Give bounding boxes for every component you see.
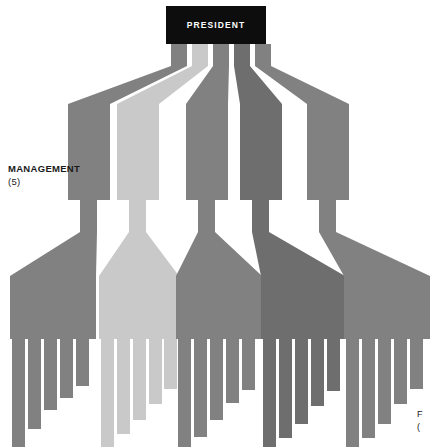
staff-group-bar-3[interactable] xyxy=(176,309,262,339)
management-label-line1: MANAGEMENT xyxy=(8,163,80,174)
staff-node-5-1[interactable] xyxy=(346,339,359,447)
management-node-2[interactable] xyxy=(117,158,159,200)
management-level-label: MANAGEMENT (5) xyxy=(8,162,80,188)
staff-node-4-2[interactable] xyxy=(279,339,292,438)
staff-node-3-3[interactable] xyxy=(210,339,223,420)
management-label-count: (5) xyxy=(8,175,80,188)
staff-node-1-3[interactable] xyxy=(44,339,57,410)
staff-node-5-3[interactable] xyxy=(378,339,391,424)
staff-node-3-2[interactable] xyxy=(194,339,207,437)
staff-node-3-1[interactable] xyxy=(178,339,191,447)
staff-node-2-1[interactable] xyxy=(101,339,114,447)
management-node-4[interactable] xyxy=(240,158,282,200)
staff-node-4-3[interactable] xyxy=(295,339,308,424)
staff-node-2-3[interactable] xyxy=(133,339,146,420)
president-box-label: PRESIDENT xyxy=(187,20,246,30)
staff-node-4-5[interactable] xyxy=(327,339,340,391)
branch-lower-band-3 xyxy=(176,200,262,309)
staff-node-5-4[interactable] xyxy=(394,339,407,404)
corner-note-line1: F xyxy=(417,408,430,421)
management-node-5[interactable] xyxy=(307,158,349,200)
staff-node-3-5[interactable] xyxy=(242,339,255,390)
corner-note: F ( xyxy=(417,408,430,434)
staff-node-4-1[interactable] xyxy=(263,339,276,447)
president-box-group: PRESIDENT xyxy=(166,6,266,44)
staff-node-3-4[interactable] xyxy=(226,339,239,403)
staff-node-2-2[interactable] xyxy=(117,339,130,434)
staff-node-5-2[interactable] xyxy=(362,339,375,438)
staff-node-1-5[interactable] xyxy=(76,339,89,386)
branch-lower-band-1 xyxy=(10,200,97,309)
staff-group-bar-2[interactable] xyxy=(99,309,179,339)
staff-node-2-5[interactable] xyxy=(164,339,177,389)
branch-layer xyxy=(10,44,430,447)
staff-node-1-1[interactable] xyxy=(12,339,25,447)
corner-note-line2: ( xyxy=(417,421,430,434)
management-node-3[interactable] xyxy=(186,158,228,200)
staff-group-bar-1[interactable] xyxy=(10,309,96,339)
staff-node-2-4[interactable] xyxy=(149,339,162,404)
staff-node-1-4[interactable] xyxy=(60,339,73,398)
staff-node-1-2[interactable] xyxy=(28,339,41,429)
org-chart-canvas: PRESIDENT xyxy=(0,0,430,447)
staff-group-bar-4[interactable] xyxy=(261,309,345,339)
staff-group-bar-5[interactable] xyxy=(344,309,430,339)
staff-node-4-4[interactable] xyxy=(311,339,324,406)
branch-lower-band-2 xyxy=(99,200,179,309)
staff-node-5-5[interactable] xyxy=(410,339,423,389)
org-chart-diagram: PRESIDENT MANAGEMENT (5) F ( xyxy=(0,0,430,447)
